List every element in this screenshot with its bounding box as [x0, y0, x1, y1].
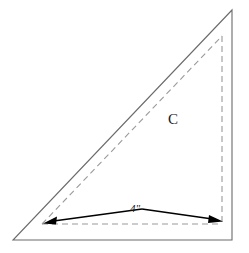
inner-triangle-hypotenuse	[42, 36, 222, 224]
dimension-arrow-left-segment	[50, 209, 142, 222]
triangle-diagram-svg	[0, 0, 249, 253]
dimension-arrow-right-segment	[142, 209, 216, 220]
region-label-c: C	[168, 112, 178, 127]
outer-triangle-shape	[13, 10, 232, 240]
dimension-label-4in: 4"	[130, 203, 140, 214]
diagram-canvas: C 4"	[0, 0, 249, 253]
dimension-arrowhead-right	[208, 215, 223, 223]
